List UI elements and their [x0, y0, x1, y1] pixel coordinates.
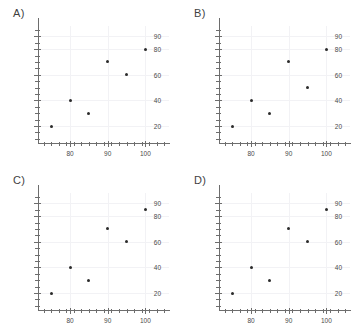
x-axis-tick-minor: [240, 309, 241, 313]
x-axis-tick-minor: [96, 309, 97, 313]
panel-c-label: C): [13, 174, 25, 186]
x-axis-tick-minor: [232, 142, 233, 146]
gridline-horizontal: [220, 75, 350, 76]
y-axis-tick-major: [215, 293, 222, 294]
y-axis-tick-label: 80: [335, 213, 342, 220]
y-axis-tick-label: 20: [154, 290, 161, 297]
y-axis-tick-label: 80: [154, 46, 161, 53]
x-axis-tick-minor: [142, 309, 143, 313]
y-axis-tick-label: 80: [335, 46, 342, 53]
gridline-vertical: [145, 26, 146, 144]
panel-c-plot-area: 20406080908090100: [38, 193, 168, 311]
x-axis-tick-major: [145, 141, 146, 147]
x-axis-tick-minor: [44, 142, 45, 146]
x-axis-tick-minor: [277, 142, 278, 146]
x-axis-tick-minor: [323, 309, 324, 313]
gridline-vertical: [108, 193, 109, 311]
x-axis-tick-label: 90: [104, 150, 111, 157]
y-axis-tick-major: [215, 49, 222, 50]
y-axis-tick-minor: [35, 210, 40, 211]
y-axis-tick-minor: [35, 30, 40, 31]
y-axis-tick-minor: [35, 62, 40, 63]
gridline-horizontal: [39, 242, 169, 243]
y-axis-tick-minor: [35, 94, 40, 95]
x-axis-tick-minor: [164, 309, 165, 313]
gridline-horizontal: [39, 267, 169, 268]
x-axis-tick-minor: [285, 309, 286, 313]
y-axis-tick-minor: [35, 248, 40, 249]
data-point: [69, 99, 72, 102]
y-axis-tick-minor: [216, 223, 221, 224]
x-axis-tick-minor: [157, 142, 158, 146]
y-axis-tick-label: 40: [154, 97, 161, 104]
x-axis-tick-minor: [315, 142, 316, 146]
y-axis-tick-minor: [216, 139, 221, 140]
y-axis-tick-minor: [216, 255, 221, 256]
data-point: [306, 86, 309, 89]
y-axis-tick-label: 80: [154, 213, 161, 220]
panel-b-plot-area: 20406080908090100: [219, 26, 349, 144]
gridline-horizontal: [39, 216, 169, 217]
y-axis-tick-minor: [35, 132, 40, 133]
x-axis-tick-major: [289, 141, 290, 147]
y-axis-tick-label: 90: [154, 33, 161, 40]
x-axis-tick-minor: [134, 309, 135, 313]
y-axis-tick-minor: [216, 132, 221, 133]
x-axis-tick-minor: [255, 142, 256, 146]
y-axis-tick-minor: [216, 299, 221, 300]
gridline-vertical: [251, 26, 252, 144]
x-axis-tick-minor: [330, 142, 331, 146]
x-axis-tick-minor: [270, 309, 271, 313]
x-axis-tick-minor: [285, 142, 286, 146]
x-axis-tick-major: [289, 308, 290, 314]
data-point: [268, 279, 271, 282]
y-axis-tick-label: 40: [335, 97, 342, 104]
x-axis-tick-minor: [308, 309, 309, 313]
x-axis-tick-minor: [247, 142, 248, 146]
panel-a-label: A): [13, 7, 25, 19]
data-point: [250, 266, 253, 269]
x-axis-tick-major: [326, 308, 327, 314]
y-axis-tick-label: 90: [335, 33, 342, 40]
y-axis-tick-label: 40: [335, 264, 342, 271]
x-axis-tick-minor: [111, 309, 112, 313]
y-axis-tick-major: [34, 126, 41, 127]
gridline-horizontal: [39, 126, 169, 127]
y-axis-tick-minor: [216, 197, 221, 198]
gridline-horizontal: [220, 100, 350, 101]
x-axis-tick-label: 90: [285, 317, 292, 324]
y-axis-tick-minor: [216, 274, 221, 275]
x-axis-tick-minor: [142, 142, 143, 146]
y-axis-tick-minor: [216, 68, 221, 69]
x-axis-tick-minor: [315, 309, 316, 313]
y-axis-tick-major: [215, 242, 222, 243]
y-axis-tick-minor: [35, 306, 40, 307]
x-axis-tick-minor: [157, 309, 158, 313]
y-axis-tick-major: [215, 267, 222, 268]
x-axis-tick-minor: [149, 309, 150, 313]
y-axis-tick-label: 90: [335, 200, 342, 207]
x-axis-tick-minor: [89, 142, 90, 146]
x-axis-tick-minor: [292, 309, 293, 313]
x-axis-tick-label: 100: [321, 150, 332, 157]
x-axis-tick-minor: [119, 309, 120, 313]
gridline-vertical: [70, 26, 71, 144]
x-axis-tick-major: [70, 141, 71, 147]
panel-a: A) 20406080908090100: [0, 0, 181, 167]
data-point: [125, 240, 128, 243]
y-axis-tick-minor: [216, 30, 221, 31]
gridline-horizontal: [220, 36, 350, 37]
x-axis-tick-label: 100: [140, 317, 151, 324]
y-axis-tick-label: 90: [154, 200, 161, 207]
y-axis-tick-minor: [35, 120, 40, 121]
x-axis-tick-minor: [300, 142, 301, 146]
x-axis-tick-minor: [270, 142, 271, 146]
data-point: [50, 125, 53, 128]
x-axis-tick-label: 80: [247, 317, 254, 324]
gridline-horizontal: [39, 75, 169, 76]
y-axis-tick-minor: [216, 280, 221, 281]
data-point: [287, 60, 290, 63]
data-point: [231, 292, 234, 295]
x-axis-tick-minor: [330, 309, 331, 313]
x-axis-tick-label: 80: [66, 317, 73, 324]
